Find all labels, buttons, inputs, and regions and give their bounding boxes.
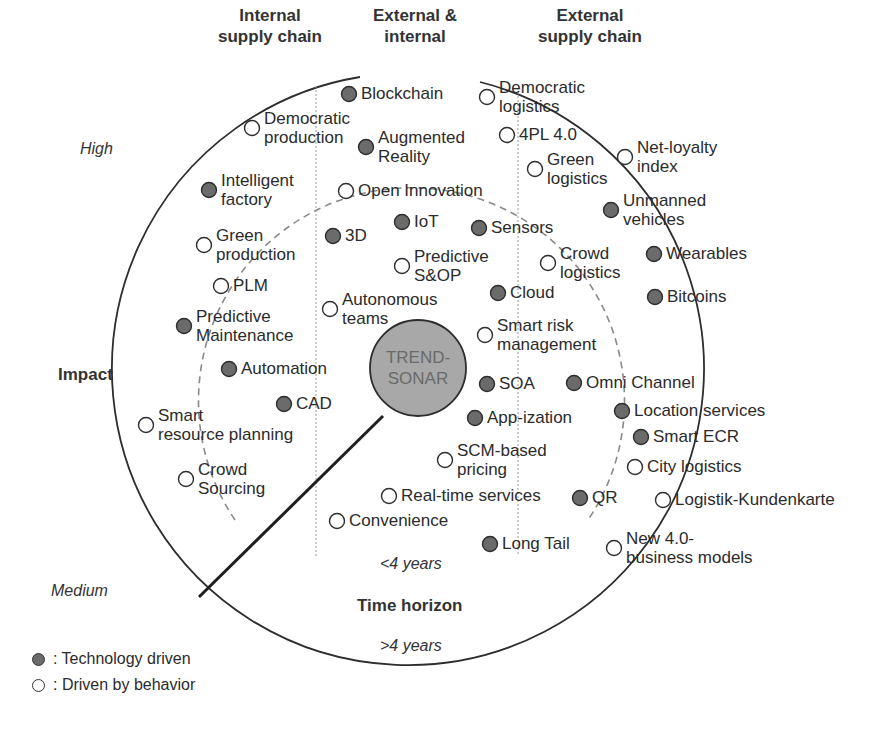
technology-dot-icon: [177, 319, 192, 334]
trend-item-label: CAD: [296, 394, 332, 413]
trend-item-label-line: Blockchain: [361, 84, 443, 103]
behavior-dot-icon: [323, 302, 338, 317]
sonar-label-line1: TREND-: [373, 347, 463, 368]
technology-dot-icon: [222, 362, 237, 377]
trend-item-label-line: Open Innovation: [358, 181, 483, 200]
trend-item-label-line: 3D: [345, 226, 367, 245]
trend-item-label: App-ization: [487, 408, 572, 427]
trend-item-label-line: Logistik-Kundenkarte: [675, 490, 835, 509]
hollow-circle-icon: [32, 679, 45, 692]
trend-item-label-line: Sourcing: [198, 479, 265, 498]
trend-item-label: Sensors: [491, 218, 553, 237]
trend-item-label: CrowdSourcing: [198, 460, 265, 498]
header-line: supply chain: [520, 26, 660, 47]
technology-dot-icon: [491, 286, 506, 301]
trend-item-label: PredictiveMaintenance: [196, 307, 293, 345]
trend-item-label-line: Smart ECR: [653, 427, 739, 446]
legend-technology-label: : Technology driven: [53, 650, 191, 668]
trend-item-label-line: Democratic: [264, 109, 350, 128]
trend-item-label-line: Bitcoins: [667, 287, 727, 306]
technology-dot-icon: [395, 215, 410, 230]
trend-item-label-line: Smart: [158, 406, 293, 425]
impact-high-label: High: [80, 140, 113, 158]
trend-item-label-line: Cloud: [510, 283, 554, 302]
header-line: External &: [355, 5, 475, 26]
header-external-internal: External & internal: [355, 5, 475, 47]
trend-item-label-line: Automation: [241, 359, 327, 378]
trend-item-label-line: logistics: [560, 263, 620, 282]
technology-dot-icon: [573, 491, 588, 506]
trend-item-label: Bitcoins: [667, 287, 727, 306]
trend-item-label-line: production: [216, 245, 295, 264]
behavior-dot-icon: [339, 184, 354, 199]
trend-item-label-line: Smart risk: [497, 316, 596, 335]
trend-item-label-line: logistics: [547, 169, 607, 188]
trend-item-label-line: pricing: [457, 460, 547, 479]
trend-item-label: PredictiveS&OP: [414, 247, 489, 285]
header-line: supply chain: [200, 26, 340, 47]
technology-dot-icon: [604, 203, 619, 218]
trend-item-label-line: Omni Channel: [586, 373, 695, 392]
trend-item-label: Unmannedvehicles: [623, 191, 706, 229]
technology-dot-icon: [648, 290, 663, 305]
technology-dot-icon: [359, 140, 374, 155]
trend-item-label: Cloud: [510, 283, 554, 302]
trend-item-label: New 4.0-business models: [626, 529, 753, 567]
trend-item-label-line: teams: [342, 309, 437, 328]
technology-dot-icon: [468, 411, 483, 426]
trend-item-label: Smart ECR: [653, 427, 739, 446]
header-internal-supply-chain: Internal supply chain: [200, 5, 340, 47]
trend-item-label: Greenproduction: [216, 226, 295, 264]
trend-item-label-line: resource planning: [158, 425, 293, 444]
trend-item-label: City logistics: [647, 457, 741, 476]
trend-item-label-line: Reality: [378, 147, 465, 166]
trend-item-label: SOA: [499, 374, 535, 393]
time-outer-label: >4 years: [380, 637, 442, 655]
technology-dot-icon: [634, 430, 649, 445]
trend-item-label: Real-time services: [401, 486, 541, 505]
trend-item-label: SCM-basedpricing: [457, 441, 547, 479]
trend-item-label-line: Long Tail: [502, 534, 570, 553]
header-line: Internal: [200, 5, 340, 26]
technology-dot-icon: [202, 183, 217, 198]
behavior-dot-icon: [480, 90, 495, 105]
behavior-dot-icon: [541, 256, 556, 271]
technology-dot-icon: [483, 537, 498, 552]
trend-item-label: Omni Channel: [586, 373, 695, 392]
technology-dot-icon: [647, 247, 662, 262]
behavior-dot-icon: [395, 259, 410, 274]
trend-item-label-line: management: [497, 335, 596, 354]
technology-dot-icon: [567, 376, 582, 391]
trend-item-label: Democraticlogistics: [499, 78, 585, 116]
trend-item-label-line: Crowd: [560, 244, 620, 263]
behavior-dot-icon: [628, 460, 643, 475]
trend-item-label: 4PL 4.0: [519, 125, 577, 144]
technology-dot-icon: [472, 221, 487, 236]
trend-item-label-line: SCM-based: [457, 441, 547, 460]
trend-item-label: Democraticproduction: [264, 109, 350, 147]
trend-item-label-line: Maintenance: [196, 326, 293, 345]
behavior-dot-icon: [500, 128, 515, 143]
trend-item-label-line: CAD: [296, 394, 332, 413]
trend-item-label-line: IoT: [414, 212, 439, 231]
trend-item-label: 3D: [345, 226, 367, 245]
trend-item-label-line: PLM: [233, 276, 268, 295]
behavior-dot-icon: [179, 472, 194, 487]
trend-item-label-line: New 4.0-: [626, 529, 753, 548]
trend-item-label-line: vehicles: [623, 210, 706, 229]
trend-item-label-line: Democratic: [499, 78, 585, 97]
trend-item-label: Open Innovation: [358, 181, 483, 200]
trend-item-label-line: factory: [221, 190, 294, 209]
behavior-dot-icon: [528, 162, 543, 177]
trend-item-label-line: Intelligent: [221, 171, 294, 190]
behavior-dot-icon: [197, 238, 212, 253]
trend-item-label: IoT: [414, 212, 439, 231]
behavior-dot-icon: [330, 514, 345, 529]
trend-item-label: Smart riskmanagement: [497, 316, 596, 354]
trend-item-label-line: QR: [592, 488, 618, 507]
behavior-dot-icon: [214, 279, 229, 294]
impact-medium-label: Medium: [51, 582, 108, 600]
trend-item-label: AugmentedReality: [378, 128, 465, 166]
trend-item-label-line: Crowd: [198, 460, 265, 479]
trend-item-label: Location services: [634, 401, 765, 420]
